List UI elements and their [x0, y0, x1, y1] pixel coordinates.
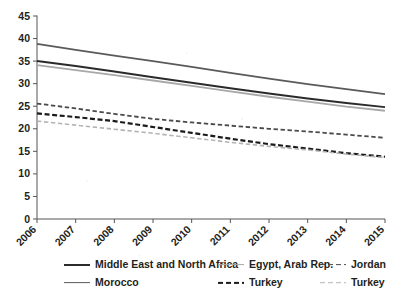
- series-line-0: [37, 61, 385, 107]
- series-line-3: [37, 113, 385, 156]
- legend-item[interactable]: Middle East and North Africa: [64, 257, 238, 272]
- legend-swatch-icon: [218, 260, 244, 270]
- x-tick-label: 2008: [91, 223, 116, 248]
- y-tick-label: 30: [18, 77, 30, 89]
- legend-row: MoroccoTurkeyTurkey: [0, 275, 397, 290]
- legend-swatch-icon: [320, 278, 346, 288]
- legend-label: Middle East and North Africa: [95, 259, 238, 270]
- legend-item[interactable]: Egypt, Arab Rep.: [218, 257, 333, 272]
- legend-label: Turkey: [351, 277, 385, 288]
- x-tick-label: 2012: [245, 223, 270, 248]
- series-line-4: [37, 104, 385, 138]
- chart-legend: Middle East and North AfricaEgypt, Arab …: [0, 255, 397, 297]
- y-tick-label: 5: [24, 190, 30, 202]
- x-tick-label: 2013: [284, 223, 309, 248]
- y-tick-label: 45: [18, 10, 30, 22]
- legend-swatch-icon: [64, 278, 90, 288]
- legend-label: Jordan: [351, 259, 386, 270]
- y-tick-label: 35: [18, 55, 30, 67]
- x-tick-label: 2007: [52, 223, 77, 248]
- y-tick-label: 10: [18, 167, 30, 179]
- y-tick-label: 20: [18, 122, 30, 134]
- series-line-5: [37, 121, 385, 158]
- legend-swatch-icon: [320, 260, 346, 270]
- plot-area: 0510152025303540452006200720082009201020…: [0, 0, 397, 255]
- x-tick-label: 2010: [168, 223, 193, 248]
- legend-item[interactable]: Turkey: [218, 275, 283, 290]
- legend-label: Morocco: [95, 277, 139, 288]
- y-tick-label: 25: [18, 100, 30, 112]
- x-tick-label: 2015: [361, 223, 386, 248]
- y-tick-label: 40: [18, 32, 30, 44]
- legend-item[interactable]: Morocco: [64, 275, 139, 290]
- legend-item[interactable]: Turkey: [320, 275, 385, 290]
- x-tick-label: 2011: [207, 223, 232, 248]
- x-tick-label: 2006: [13, 223, 38, 248]
- legend-item[interactable]: Jordan: [320, 257, 386, 272]
- legend-swatch-icon: [218, 278, 244, 288]
- legend-label: Turkey: [249, 277, 283, 288]
- line-chart: 0510152025303540452006200720082009201020…: [0, 0, 397, 297]
- legend-row: Middle East and North AfricaEgypt, Arab …: [0, 257, 397, 272]
- x-tick-label: 2009: [129, 223, 154, 248]
- x-tick-label: 2014: [323, 223, 348, 248]
- y-tick-label: 15: [18, 145, 30, 157]
- legend-swatch-icon: [64, 260, 90, 270]
- series-line-1: [37, 44, 385, 94]
